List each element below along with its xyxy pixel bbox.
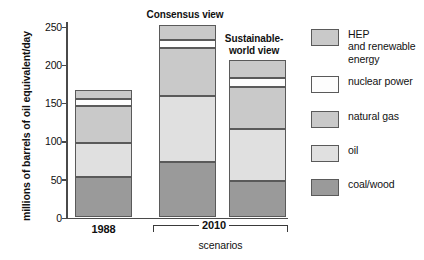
legend-label-gas: natural gas	[348, 110, 399, 122]
legend-swatch-hep-icon	[311, 29, 339, 46]
segment-hep-1988	[75, 90, 132, 99]
segment-gas-consensus	[159, 48, 216, 96]
legend-item-coal-wood[interactable]: coal/wood	[311, 178, 394, 196]
legend-item-oil[interactable]: oil	[311, 144, 358, 162]
y-tick-150	[62, 103, 67, 104]
y-tick-label-150: 150	[22, 97, 62, 109]
segment-nuclear-1988	[75, 99, 132, 107]
y-tick-250	[62, 27, 67, 28]
y-tick-label-100: 100	[22, 135, 62, 147]
y-tick-0	[62, 218, 67, 219]
legend-label-coal: coal/wood	[348, 178, 394, 190]
bar-title-consensus: Consensus view	[136, 9, 234, 21]
bracket-label-2010: 2010	[199, 219, 229, 231]
bar-title-sustainable-line2: world view	[229, 45, 279, 56]
segment-coal-consensus	[159, 162, 216, 217]
legend-label-nuclear: nuclear power	[348, 75, 413, 87]
y-axis-line	[66, 22, 68, 219]
segment-hep-consensus	[159, 25, 216, 40]
bar-title-sustainable: Sustainable- world view	[212, 33, 296, 56]
bar-title-sustainable-line1: Sustainable-	[225, 33, 283, 44]
legend-item-hep-renewable[interactable]: HEP and renewable energy	[311, 28, 416, 65]
y-tick-label-200: 200	[22, 59, 62, 71]
legend-label-hep: HEP and renewable energy	[348, 28, 416, 65]
segment-nuclear-consensus	[159, 40, 216, 48]
bar-consensus-2010[interactable]	[159, 26, 216, 218]
y-tick-50	[62, 179, 67, 180]
scenario-bracket: 2010	[153, 225, 288, 234]
bar-sustainable-2010[interactable]	[229, 61, 286, 218]
y-tick-label-50: 50	[22, 174, 62, 186]
legend-swatch-coal-icon	[311, 179, 339, 196]
y-tick-label-250: 250	[22, 21, 62, 33]
segment-oil-consensus	[159, 96, 216, 162]
y-axis-title: millions of barrels of oil equivalent/da…	[20, 26, 32, 226]
segment-gas-sustainable	[229, 87, 286, 129]
stacked-bar-chart: millions of barrels of oil equivalent/da…	[0, 0, 424, 260]
legend-swatch-oil-icon	[311, 145, 339, 162]
segment-hep-sustainable	[229, 60, 286, 78]
segment-coal-sustainable	[229, 181, 286, 217]
legend-swatch-nuclear-icon	[311, 76, 339, 93]
x-label-1988: 1988	[75, 223, 132, 235]
segment-oil-sustainable	[229, 129, 286, 181]
segment-nuclear-sustainable	[229, 78, 286, 87]
x-axis-caption: scenarios	[153, 239, 288, 251]
y-tick-label-0: 0	[22, 212, 62, 224]
legend-item-natural-gas[interactable]: natural gas	[311, 110, 399, 128]
segment-coal-1988	[75, 177, 132, 217]
bar-1988[interactable]	[75, 91, 132, 218]
legend-label-oil: oil	[348, 144, 358, 156]
y-tick-100	[62, 141, 67, 142]
legend-swatch-gas-icon	[311, 111, 339, 128]
segment-oil-1988	[75, 143, 132, 178]
segment-gas-1988	[75, 106, 132, 143]
y-tick-200	[62, 65, 67, 66]
legend-item-nuclear-power[interactable]: nuclear power	[311, 75, 413, 93]
